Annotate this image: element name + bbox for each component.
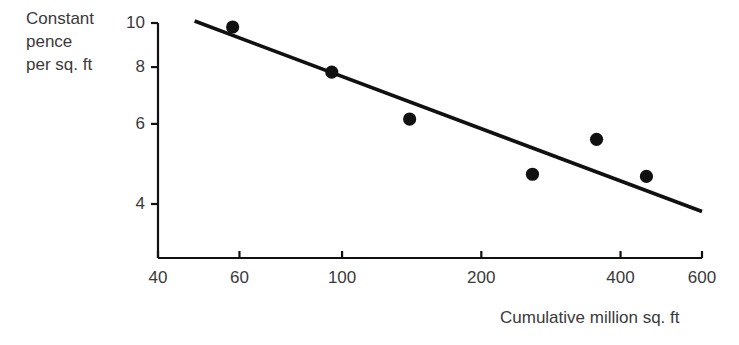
y-tick-label: 8 — [95, 57, 145, 77]
axis-lines — [158, 23, 702, 258]
x-tick-label: 400 — [606, 268, 634, 288]
y-tick-label: 10 — [95, 13, 145, 33]
chart-figure: Constantpenceper sq. ft Cumulative milli… — [0, 0, 739, 345]
y-tick-label: 6 — [95, 114, 145, 134]
x-tick-label: 200 — [467, 268, 495, 288]
y-tick-label: 4 — [95, 194, 145, 214]
x-tick-label: 600 — [688, 268, 716, 288]
data-point — [590, 133, 603, 146]
data-point — [325, 65, 338, 78]
data-point — [226, 20, 239, 33]
data-point — [403, 112, 416, 125]
data-point — [526, 168, 539, 181]
x-tick-label: 40 — [149, 268, 168, 288]
data-points — [226, 20, 653, 183]
data-point — [640, 170, 653, 183]
plot-canvas — [0, 0, 739, 345]
x-tick-label: 100 — [328, 268, 356, 288]
axis-ticks — [151, 23, 702, 258]
trend-line — [195, 21, 702, 212]
x-tick-label: 60 — [230, 268, 249, 288]
